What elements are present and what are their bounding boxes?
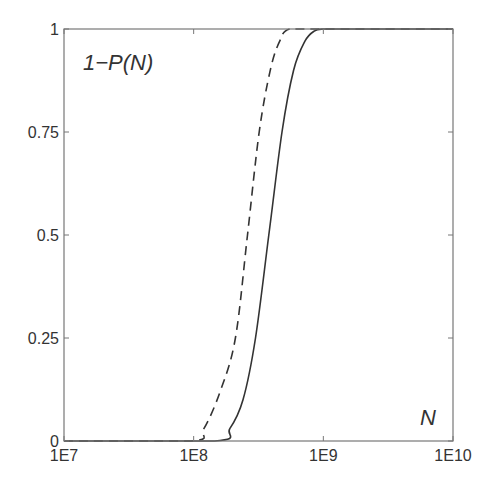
x-axis-tick-labels: 1E71E81E91E10: [50, 447, 472, 464]
tick-layer: [64, 29, 453, 441]
chart: 1E71E81E91E10 00.250.50.751 1−P(N) N: [0, 0, 500, 492]
series-solid-line: [64, 29, 453, 441]
y-tick-label: 0: [50, 433, 59, 450]
series-layer: [64, 29, 453, 441]
y-axis-annotation: 1−P(N): [83, 50, 153, 75]
x-tick-label: 1E10: [434, 447, 471, 464]
y-tick-label: 0.5: [37, 227, 59, 244]
x-axis-annotation: N: [420, 405, 436, 430]
y-axis-tick-labels: 00.250.50.751: [28, 21, 59, 450]
x-tick-label: 1E8: [179, 447, 208, 464]
series-dashed-line: [64, 29, 453, 441]
plot-frame: [64, 29, 453, 441]
y-tick-label: 1: [50, 21, 59, 38]
chart-svg: 1E71E81E91E10 00.250.50.751 1−P(N) N: [0, 0, 500, 492]
y-tick-label: 0.75: [28, 124, 59, 141]
y-tick-label: 0.25: [28, 330, 59, 347]
x-tick-label: 1E9: [309, 447, 338, 464]
